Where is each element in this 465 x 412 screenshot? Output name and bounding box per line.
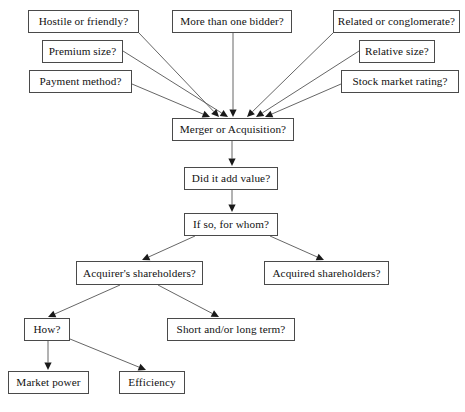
node-payment[interactable]: Payment method? xyxy=(29,70,132,93)
node-label: More than one bidder? xyxy=(180,15,284,27)
node-label: Relative size? xyxy=(365,45,429,57)
node-label: Did it add value? xyxy=(192,172,270,184)
node-shortlong[interactable]: Short and/or long term? xyxy=(167,318,295,341)
arrowhead-addvalue-to-forwhom xyxy=(228,205,235,213)
node-label: Efficiency xyxy=(128,376,175,388)
node-label: Acquirer's shareholders? xyxy=(83,267,196,279)
arrowhead-relative-to-merger xyxy=(256,110,264,117)
node-acquired[interactable]: Acquired shareholders? xyxy=(264,261,389,285)
node-forwhom[interactable]: If so, for whom? xyxy=(184,213,278,236)
node-label: Hostile or friendly? xyxy=(39,15,129,27)
arrowhead-premium-to-merger xyxy=(220,110,228,117)
node-label: Related or conglomerate? xyxy=(338,15,455,27)
flowchart-canvas: Hostile or friendly?More than one bidder… xyxy=(0,0,465,412)
node-hostile[interactable]: Hostile or friendly? xyxy=(28,10,139,33)
node-marketpower[interactable]: Market power xyxy=(8,371,89,394)
node-label: Premium size? xyxy=(49,45,116,57)
node-label: Merger or Acquisition? xyxy=(180,123,286,135)
node-related[interactable]: Related or conglomerate? xyxy=(333,10,460,33)
edge-premium-to-merger xyxy=(123,51,222,113)
edge-forwhom-to-acquirer xyxy=(149,236,195,257)
node-label: Short and/or long term? xyxy=(177,323,286,335)
node-label: Market power xyxy=(16,376,80,388)
edge-stock-to-merger xyxy=(272,84,341,114)
edge-related-to-merger xyxy=(252,33,333,112)
node-how[interactable]: How? xyxy=(24,318,70,341)
node-bidder[interactable]: More than one bidder? xyxy=(172,10,292,33)
edge-forwhom-to-acquired xyxy=(270,236,317,257)
edge-acquirer-to-shortlong xyxy=(158,285,212,314)
arrowhead-bidder-to-merger xyxy=(229,110,236,118)
edge-acquirer-to-how xyxy=(55,285,120,314)
edge-how-to-efficiency xyxy=(70,339,139,367)
node-efficiency[interactable]: Efficiency xyxy=(119,371,185,394)
arrowhead-how-to-marketpower xyxy=(44,363,51,371)
edge-hostile-to-merger xyxy=(139,33,214,112)
node-label: If so, for whom? xyxy=(193,218,269,230)
node-label: Payment method? xyxy=(40,75,122,87)
arrowhead-merger-to-addvalue xyxy=(228,159,235,167)
node-label: How? xyxy=(33,323,60,335)
node-label: Stock market rating? xyxy=(352,75,447,87)
node-acquirer[interactable]: Acquirer's shareholders? xyxy=(76,261,203,285)
node-addvalue[interactable]: Did it add value? xyxy=(184,167,278,190)
node-merger[interactable]: Merger or Acquisition? xyxy=(172,118,294,141)
node-stock[interactable]: Stock market rating? xyxy=(341,70,459,93)
node-label: Acquired shareholders? xyxy=(272,267,380,279)
node-premium[interactable]: Premium size? xyxy=(42,40,123,63)
node-relative[interactable]: Relative size? xyxy=(359,40,435,63)
